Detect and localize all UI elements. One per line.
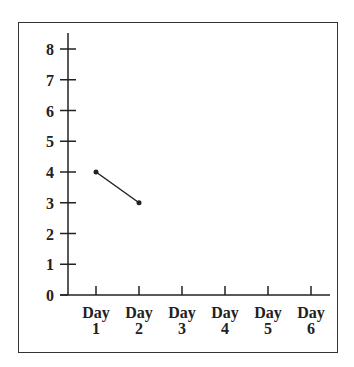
x-tick-label-number: 5 <box>264 320 272 337</box>
x-tick-label-number: 4 <box>221 320 229 337</box>
y-tick-label: 3 <box>46 195 54 212</box>
x-tick-label-number: 3 <box>178 320 186 337</box>
y-tick-label: 1 <box>46 256 54 273</box>
line-chart: 012345678 Day1Day2Day3Day4Day5Day6 <box>0 0 354 367</box>
x-tick-label-number: 1 <box>92 320 100 337</box>
x-tick-label-number: 6 <box>307 320 315 337</box>
y-tick-label: 4 <box>46 164 54 181</box>
data-point <box>94 170 99 175</box>
y-axis-ticks: 012345678 <box>46 41 76 304</box>
data-point <box>137 200 142 205</box>
x-tick-label-number: 2 <box>135 320 143 337</box>
data-line <box>96 172 139 203</box>
y-tick-label: 0 <box>46 287 54 304</box>
data-series <box>94 170 142 206</box>
y-tick-label: 8 <box>46 41 54 58</box>
y-tick-label: 7 <box>46 72 54 89</box>
y-tick-label: 5 <box>46 133 54 150</box>
y-tick-label: 2 <box>46 226 54 243</box>
x-axis-ticks: Day1Day2Day3Day4Day5Day6 <box>82 286 325 337</box>
y-tick-label: 6 <box>46 103 54 120</box>
